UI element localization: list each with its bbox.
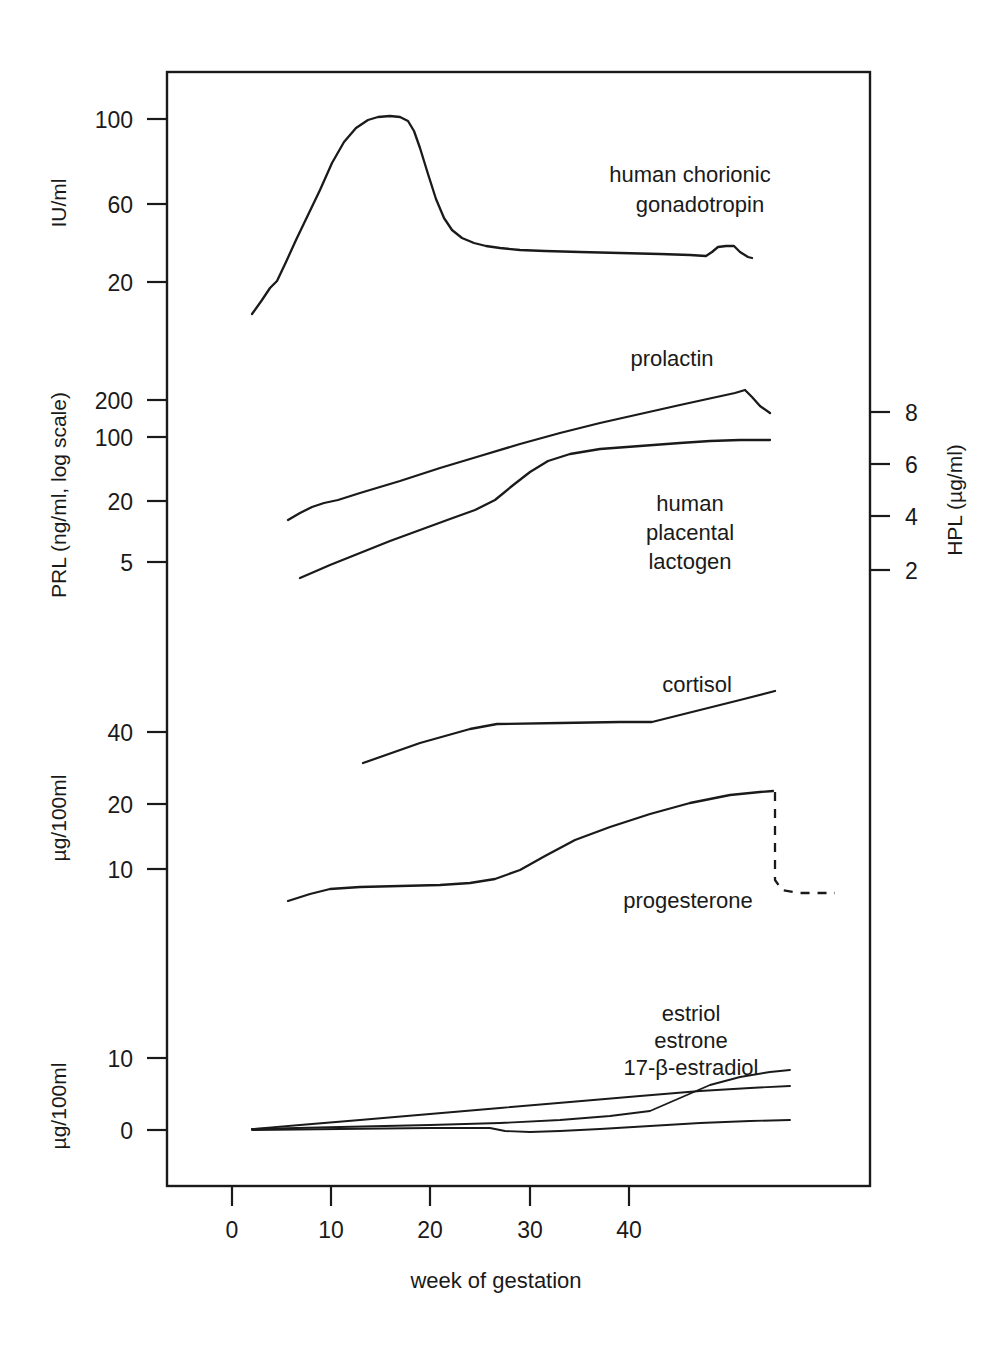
label-progesterone: progesterone	[623, 888, 753, 913]
cort-tick-label-40: 40	[107, 720, 133, 746]
label-hcg-line2: gonadotropin	[636, 192, 764, 217]
label-cortisol: cortisol	[662, 672, 732, 697]
hcg-tick-label-100: 100	[95, 107, 133, 133]
x-tick-label-0: 0	[226, 1217, 239, 1243]
cort-tick-label-10: 10	[107, 857, 133, 883]
panel-prolactin-hpl: 200 100 20 5 PRL (ng/ml, log scale) 8 6 …	[47, 346, 966, 598]
hpl-tick-label-8: 8	[905, 400, 918, 426]
x-tick-label-40: 40	[616, 1217, 642, 1243]
hcg-tick-label-60: 60	[107, 192, 133, 218]
chart-svg: 0 10 20 30 40 week of gestation 100 60 2…	[0, 0, 998, 1345]
label-hpl-line3: lactogen	[648, 549, 731, 574]
prl-axis-unit-label: PRL (ng/ml, log scale)	[47, 392, 70, 598]
prl-tick-label-5: 5	[120, 550, 133, 576]
x-tick-label-20: 20	[417, 1217, 443, 1243]
hcg-tick-label-20: 20	[107, 270, 133, 296]
cort-axis-unit-label: µg/100ml	[47, 775, 70, 862]
estro-tick-label-10: 10	[107, 1046, 133, 1072]
label-prolactin: prolactin	[630, 346, 713, 371]
cort-tick-label-20: 20	[107, 792, 133, 818]
hpl-tick-label-6: 6	[905, 452, 918, 478]
label-hcg-line1: human chorionic	[609, 162, 770, 187]
label-hpl-line2: placental	[646, 520, 734, 545]
panel-estrogens: 10 0 µg/100ml estriol estrone 17-β-estra…	[47, 1001, 790, 1149]
curve-cortisol	[363, 691, 775, 763]
label-hpl-line1: human	[656, 491, 723, 516]
prl-tick-label-100: 100	[95, 425, 133, 451]
curve-progesterone-postpartum	[775, 792, 835, 893]
x-axis-title: week of gestation	[409, 1268, 581, 1293]
hpl-axis-unit-label: HPL (µg/ml)	[943, 444, 966, 556]
curve-progesterone	[288, 791, 773, 901]
panel-cortisol-progesterone: 40 20 10 µg/100ml cortisol progesterone	[47, 672, 835, 913]
hcg-axis-unit-label: IU/ml	[47, 179, 70, 228]
prl-tick-label-20: 20	[107, 489, 133, 515]
x-tick-label-30: 30	[517, 1217, 543, 1243]
hpl-tick-label-2: 2	[905, 558, 918, 584]
prl-tick-label-200: 200	[95, 388, 133, 414]
estro-axis-unit-label: µg/100ml	[47, 1063, 70, 1150]
plot-frame	[167, 72, 870, 1186]
label-estrone: estrone	[654, 1028, 727, 1053]
label-17-beta-estradiol: 17-β-estradiol	[624, 1055, 759, 1080]
panel-hcg: 100 60 20 IU/ml human chorionic gonadotr…	[47, 107, 771, 314]
x-tick-label-10: 10	[318, 1217, 344, 1243]
hormone-levels-figure: 0 10 20 30 40 week of gestation 100 60 2…	[0, 0, 998, 1345]
label-estriol: estriol	[662, 1001, 721, 1026]
x-axis: 0 10 20 30 40 week of gestation	[226, 1186, 642, 1293]
hpl-tick-label-4: 4	[905, 504, 918, 530]
estro-tick-label-0: 0	[120, 1118, 133, 1144]
